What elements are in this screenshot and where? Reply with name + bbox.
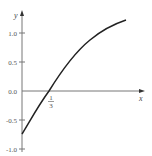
data-curve [22,20,126,134]
x-annotation-one-third: 1 3 [48,94,54,110]
y-tick-label: 0.0 [8,88,17,96]
y-tick-labels: 1.0 0.5 0.0 -0.5 -1.0 [6,30,18,154]
fraction-denominator: 3 [49,102,53,110]
y-tick-label: 0.5 [8,59,17,67]
fraction-numerator: 1 [49,94,53,102]
y-tick-label: -1.0 [6,146,18,154]
chart: 1.0 0.5 0.0 -0.5 -1.0 y x 1 3 [0,0,152,156]
y-axis-label: y [13,11,18,20]
x-axis-arrow-icon [139,89,145,93]
y-tick-label: 1.0 [8,30,17,38]
y-axis-arrow-icon [20,10,24,16]
x-axis-label: x [138,94,143,103]
y-tick-label: -0.5 [6,117,18,125]
